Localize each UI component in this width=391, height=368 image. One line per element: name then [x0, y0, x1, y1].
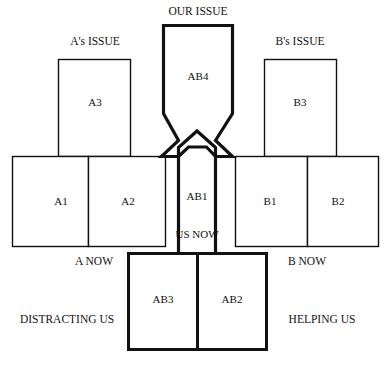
box-label-a3: A3	[88, 97, 101, 108]
diagram-canvas: OUR ISSUE A's ISSUE B's ISSUE A NOW B NO…	[0, 0, 391, 368]
box-b3-outline	[265, 60, 337, 157]
label-a-now: A NOW	[75, 256, 113, 268]
label-a-issue: A's ISSUE	[70, 36, 120, 48]
label-b-issue: B's ISSUE	[275, 36, 324, 48]
box-ab4-outline	[162, 26, 233, 157]
label-distracting-us: DISTRACTING US	[20, 314, 114, 326]
label-b-now: B NOW	[288, 256, 326, 268]
box-label-a1: A1	[54, 196, 67, 207]
box-label-ab4: AB4	[188, 71, 209, 82]
box-label-ab3: AB3	[153, 294, 174, 305]
box-label-ab1: AB1	[187, 191, 208, 202]
label-us-now: US NOW	[175, 229, 218, 240]
box-label-a2: A2	[121, 196, 134, 207]
box-label-b2: B2	[332, 196, 345, 207]
box-a1-outline	[13, 157, 89, 247]
label-helping-us: HELPING US	[289, 314, 356, 326]
label-our-issue: OUR ISSUE	[168, 6, 227, 18]
box-a3-outline	[59, 60, 131, 157]
box-label-ab2: AB2	[222, 294, 243, 305]
box-label-b1: B1	[264, 196, 277, 207]
box-label-b3: B3	[294, 97, 307, 108]
